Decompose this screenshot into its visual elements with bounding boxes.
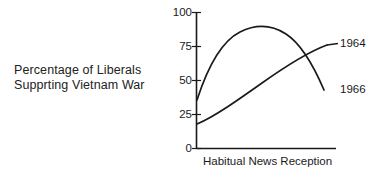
series-1964-leader-line bbox=[327, 44, 338, 46]
x-axis-title: Habitual News Reception bbox=[203, 155, 332, 167]
series-line-1966 bbox=[197, 27, 324, 100]
y-tick-label-100: 100 bbox=[166, 6, 192, 18]
y-tick-label-25: 25 bbox=[166, 108, 192, 120]
figure-screenshot: Percentage of Liberals Supprting Vietnam… bbox=[0, 0, 375, 180]
y-tick-label-50: 50 bbox=[166, 74, 192, 86]
y-tick-label-0: 0 bbox=[166, 142, 192, 154]
series-label-1966: 1966 bbox=[340, 83, 366, 95]
series-label-1964: 1964 bbox=[340, 37, 366, 49]
y-tick-label-75: 75 bbox=[166, 40, 192, 52]
